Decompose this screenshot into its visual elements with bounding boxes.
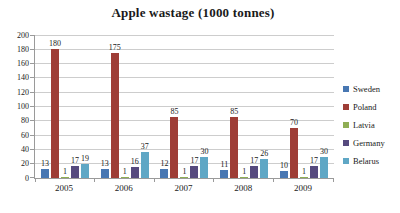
chart-title: Apple wastage (1000 tonnes) [0, 5, 386, 21]
bar: 1 [121, 177, 129, 178]
y-axis-tick-label: 20 [0, 159, 29, 168]
bar: 17 [310, 166, 318, 178]
y-axis-tick-label: 100 [0, 102, 29, 111]
bar-value-label: 85 [170, 108, 178, 116]
legend-label: Poland [353, 103, 377, 112]
legend: SwedenPolandLatviaGermanyBelarus [343, 80, 385, 170]
bar-value-label: 17 [190, 157, 198, 165]
bar: 175 [111, 53, 119, 178]
y-axis-tick [30, 106, 34, 107]
bar: 17 [250, 166, 258, 178]
bar: 17 [190, 166, 198, 178]
legend-color-marker [343, 122, 349, 128]
x-axis-category-label: 2008 [213, 184, 273, 194]
y-axis-tick [30, 177, 34, 178]
bar: 1 [300, 177, 308, 178]
legend-color-marker [343, 86, 349, 92]
y-axis-tick [30, 149, 34, 150]
bar-value-label: 1 [242, 168, 246, 176]
y-axis-tick-label: 180 [0, 45, 29, 54]
bar: 13 [101, 169, 109, 178]
legend-item: Germany [343, 134, 385, 152]
bar-value-label: 1 [302, 168, 306, 176]
bar-value-label: 17 [250, 157, 258, 165]
bar: 11 [220, 170, 228, 178]
bar-value-label: 30 [200, 148, 208, 156]
bar-value-label: 180 [49, 40, 61, 48]
bar-group: 1317511637 [95, 35, 155, 178]
y-axis-tick-label: 80 [0, 116, 29, 125]
legend-label: Sweden [353, 85, 380, 94]
bar-value-label: 26 [260, 150, 268, 158]
chart-canvas: Apple wastage (1000 tonnes) 131801171913… [0, 0, 400, 213]
bar-value-label: 11 [220, 161, 228, 169]
y-axis-tick [30, 92, 34, 93]
bar: 26 [260, 159, 268, 178]
x-axis-category-label: 2009 [273, 184, 333, 194]
x-axis-tick [213, 178, 214, 182]
legend-label: Germany [353, 139, 385, 148]
bar: 30 [200, 157, 208, 178]
bar: 37 [141, 152, 149, 178]
bar: 1 [180, 177, 188, 178]
y-axis-tick [30, 77, 34, 78]
bar: 30 [320, 157, 328, 178]
legend-item: Latvia [343, 116, 385, 134]
bar: 19 [81, 164, 89, 178]
bar: 70 [290, 128, 298, 178]
bar: 180 [51, 49, 59, 178]
y-axis-tick-label: 140 [0, 73, 29, 82]
legend-item: Poland [343, 98, 385, 116]
x-axis-category-label: 2005 [34, 184, 94, 194]
bar-value-label: 19 [81, 155, 89, 163]
bar-group: 107011730 [274, 35, 334, 178]
y-axis-tick-label: 160 [0, 59, 29, 68]
y-axis-tick [30, 49, 34, 50]
y-axis-tick-label: 0 [0, 174, 29, 183]
y-axis-tick [30, 120, 34, 121]
plot-area: 1318011719131751163712851173011851172610… [34, 35, 334, 179]
y-axis-tick-label: 120 [0, 88, 29, 97]
bar-group: 128511730 [155, 35, 215, 178]
legend-item: Sweden [343, 80, 385, 98]
x-axis-tick [154, 178, 155, 182]
bar-value-label: 37 [141, 143, 149, 151]
bar-group: 1318011719 [35, 35, 95, 178]
bar-value-label: 17 [71, 157, 79, 165]
bar: 1 [61, 177, 69, 178]
x-axis-tick [94, 178, 95, 182]
bar-value-label: 13 [41, 160, 49, 168]
y-axis-tick-label: 60 [0, 131, 29, 140]
legend-color-marker [343, 140, 349, 146]
bar-value-label: 12 [160, 160, 168, 168]
bar-value-label: 16 [131, 158, 139, 166]
bar-value-label: 10 [280, 162, 288, 170]
bar-value-label: 70 [290, 119, 298, 127]
bar: 85 [170, 117, 178, 178]
y-axis-tick [30, 163, 34, 164]
bar-value-label: 1 [63, 168, 67, 176]
legend-color-marker [343, 158, 349, 164]
x-axis-category-label: 2007 [154, 184, 214, 194]
bar: 16 [131, 167, 139, 178]
legend-label: Belarus [353, 157, 379, 166]
bar: 13 [41, 169, 49, 178]
x-axis-tick [333, 178, 334, 182]
y-axis-tick-label: 200 [0, 31, 29, 40]
bar-group: 118511726 [214, 35, 274, 178]
y-axis-tick [30, 63, 34, 64]
x-axis-tick [273, 178, 274, 182]
bar-value-label: 175 [109, 44, 121, 52]
x-axis-category-label: 2006 [94, 184, 154, 194]
bar: 17 [71, 166, 79, 178]
bar-value-label: 85 [230, 108, 238, 116]
legend-label: Latvia [353, 121, 375, 130]
bar-value-label: 30 [320, 148, 328, 156]
bar-value-label: 1 [123, 168, 127, 176]
bar-value-label: 17 [310, 157, 318, 165]
y-axis-tick [30, 35, 34, 36]
bar-value-label: 1 [182, 168, 186, 176]
x-axis-tick [35, 178, 36, 182]
bar: 10 [280, 171, 288, 178]
bar-value-label: 13 [101, 160, 109, 168]
